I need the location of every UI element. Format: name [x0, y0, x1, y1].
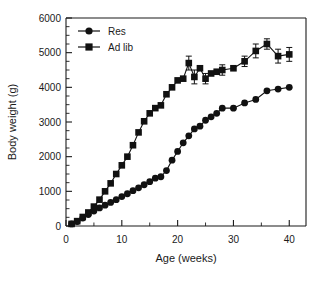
- data-point: [91, 203, 98, 210]
- data-point: [264, 87, 271, 94]
- figure-container: 0100020003000400050006000010203040 Res A…: [0, 0, 334, 281]
- y-tick-label: 6000: [39, 13, 62, 24]
- y-tick-label: 5000: [39, 47, 62, 58]
- x-tick-label: 40: [284, 234, 296, 245]
- data-point: [252, 96, 259, 103]
- x-axis-title: Age (weeks): [155, 252, 216, 264]
- data-point: [180, 139, 187, 146]
- x-tick-label: 10: [116, 234, 128, 245]
- x-tick-label: 0: [63, 234, 69, 245]
- data-point: [96, 196, 103, 203]
- data-point: [241, 100, 248, 107]
- data-point: [275, 86, 282, 93]
- data-point: [252, 48, 259, 55]
- y-axis-title: Body weight (g): [6, 84, 18, 160]
- data-point: [169, 157, 176, 164]
- x-tick-label: 30: [228, 234, 240, 245]
- data-point: [158, 102, 165, 109]
- data-point: [180, 75, 187, 82]
- legend-marker-adlib: [85, 43, 92, 50]
- plot-area-background: [66, 18, 306, 226]
- data-point: [230, 105, 237, 112]
- data-point: [230, 65, 237, 72]
- data-point: [264, 41, 271, 48]
- data-point: [197, 65, 204, 72]
- data-point: [163, 167, 170, 174]
- data-point: [157, 173, 164, 180]
- data-point: [286, 84, 293, 91]
- legend-marker-res: [85, 27, 92, 34]
- data-point: [85, 209, 92, 216]
- data-point: [141, 118, 148, 125]
- data-point: [219, 67, 226, 74]
- data-point: [213, 110, 220, 117]
- body-weight-growth-chart: 0100020003000400050006000010203040 Res A…: [0, 0, 334, 281]
- legend-label-adlib: Ad lib: [108, 42, 133, 53]
- data-point: [124, 153, 131, 160]
- y-tick-label: 4000: [39, 82, 62, 93]
- data-point: [113, 171, 120, 178]
- data-point: [241, 58, 248, 65]
- data-point: [219, 105, 226, 112]
- data-point: [191, 74, 198, 81]
- data-point: [197, 123, 204, 130]
- data-point: [174, 148, 181, 155]
- y-tick-label: 2000: [39, 151, 62, 162]
- data-point: [286, 51, 293, 58]
- x-tick-label: 20: [172, 234, 184, 245]
- data-point: [102, 188, 109, 195]
- y-tick-label: 1000: [39, 186, 62, 197]
- y-tick-label: 3000: [39, 117, 62, 128]
- data-point: [107, 180, 114, 187]
- data-point: [119, 162, 126, 169]
- data-point: [163, 91, 170, 98]
- y-tick-label: 0: [55, 221, 61, 232]
- data-point: [135, 129, 142, 136]
- data-point: [130, 142, 137, 149]
- legend-label-res: Res: [108, 26, 126, 37]
- data-point: [169, 84, 176, 91]
- data-point: [185, 60, 192, 67]
- data-point: [185, 132, 192, 139]
- data-point: [275, 53, 282, 60]
